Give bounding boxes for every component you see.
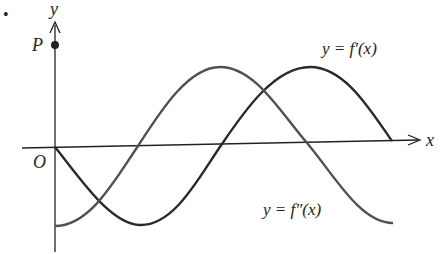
x-axis-label: x [425,130,434,150]
curve-label-f-prime: y = f′(x) [320,39,377,58]
origin-label: O [33,152,46,172]
point-p-label: P [31,35,43,55]
diagram-canvas: • y x O P y = f′(x) y = f″(x) [0,0,443,254]
y-axis-label: y [48,0,58,19]
point-p-marker [51,41,59,49]
bullet-marker: • [3,6,9,23]
curve-label-f-double-prime: y = f″(x) [261,200,322,219]
